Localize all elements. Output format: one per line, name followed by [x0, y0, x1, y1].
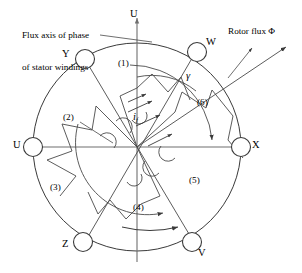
sector-label-2: (2) [63, 112, 74, 123]
rotor-flux-leader [228, 48, 252, 78]
terminal-label-y: Y [62, 48, 70, 60]
rotation-direction-arrow [122, 227, 178, 231]
terminal-label-x: X [252, 139, 260, 151]
caption-line-1: Flux axis of phase [22, 30, 89, 41]
terminal-circle-u [24, 138, 43, 157]
caption-leader-line [100, 35, 152, 42]
terminal-label-z: Z [62, 238, 68, 250]
field-current-label: if [117, 87, 138, 144]
figure-root: Flux axis of phase of stator windings Ro… [0, 0, 302, 273]
sector-label-3: (3) [50, 182, 61, 193]
terminal-circle-w [188, 43, 207, 62]
terminal-circle-x [232, 138, 251, 157]
terminal-label-v: V [198, 247, 206, 259]
terminal-label-w: W [206, 36, 216, 48]
field-current-subscript: f [136, 116, 138, 124]
terminal-label-u: U [13, 139, 21, 151]
caption-line-2: of stator windings [22, 62, 89, 73]
rotor-flux-vector [137, 47, 286, 147]
sector-label-1: (1) [118, 58, 129, 69]
sector-label-6: (6) [197, 97, 208, 108]
caption-flux-axis: Flux axis of phase of stator windings [22, 8, 89, 95]
sector-label-5: (5) [189, 175, 200, 186]
sector-label-4: (4) [133, 202, 144, 213]
u-axis-label: U [130, 8, 138, 20]
gamma-angle-label: γ [186, 70, 190, 82]
rotor-flux-label: Rotor flux Φ [228, 26, 275, 37]
terminal-circle-z [74, 233, 93, 252]
